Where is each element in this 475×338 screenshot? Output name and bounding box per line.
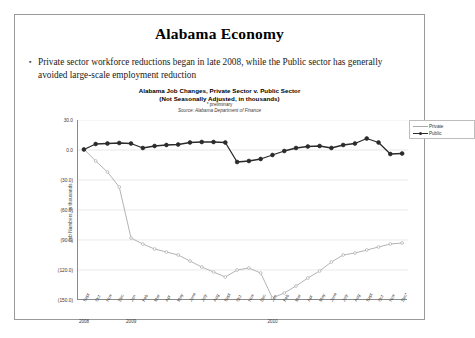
data-point — [354, 252, 357, 255]
x-axis-year-label: 2009 — [126, 319, 136, 324]
data-point — [129, 142, 133, 146]
data-point — [388, 152, 392, 156]
chart-title-block: Alabama Job Changes, Private Sector v. P… — [15, 87, 424, 114]
data-point — [176, 143, 180, 147]
data-point — [117, 141, 121, 145]
legend-swatch-icon — [412, 130, 429, 137]
data-point — [377, 246, 380, 249]
y-axis-tick-label: (120.0) — [33, 268, 73, 273]
data-point — [177, 254, 180, 257]
data-point — [130, 237, 133, 240]
chart-svg — [78, 120, 408, 300]
data-point — [401, 242, 404, 245]
y-axis-ticks: 30.00.0(30.0)(60.0)(90.0)(120.0)(150.0) — [33, 114, 73, 316]
y-axis-tick-label: 0.0 — [33, 148, 73, 153]
bullet-text: Private sector workforce reductions bega… — [38, 56, 408, 81]
data-point — [82, 148, 86, 152]
chart-title-line: Alabama Job Changes, Private Sector v. P… — [15, 87, 424, 95]
page-title: Alabama Economy — [15, 25, 424, 43]
data-point — [141, 243, 144, 246]
data-point — [377, 141, 381, 145]
data-point — [259, 272, 262, 275]
data-point — [212, 140, 216, 144]
chart: Alabama Job Changes, Private Sector v. P… — [15, 87, 424, 319]
x-axis-tick-label: Oct — [94, 294, 102, 302]
data-point — [306, 277, 309, 280]
data-point — [188, 141, 192, 145]
y-axis-tick-label: (30.0) — [33, 178, 73, 183]
chart-subtitle: (Not Seasonally Adjusted, in thousands) — [15, 95, 424, 103]
data-point — [224, 276, 227, 279]
data-point — [141, 146, 145, 150]
data-point — [106, 142, 110, 146]
data-point — [330, 261, 333, 264]
data-point — [342, 254, 345, 257]
data-point — [318, 270, 321, 273]
data-point — [236, 269, 239, 272]
data-point — [282, 149, 286, 153]
x-axis-tick-label: Apr — [306, 294, 314, 302]
data-point — [106, 171, 109, 174]
legend-label: Private — [429, 124, 443, 129]
x-axis-year-label: 2010 — [267, 319, 277, 324]
data-point — [165, 251, 168, 254]
x-axis-ticks: SeptOctNovDecJanFebMarAprMayJuneJulyAugS… — [77, 300, 407, 326]
data-point — [306, 145, 310, 149]
data-point — [294, 146, 298, 150]
data-point — [153, 144, 157, 148]
data-point — [329, 146, 333, 150]
data-point — [365, 249, 368, 252]
data-point — [94, 160, 97, 163]
y-axis-tick-label: (150.0) — [33, 298, 73, 303]
data-point — [353, 142, 357, 146]
y-axis-tick-label: 30.0 — [33, 118, 73, 123]
data-point — [247, 159, 251, 163]
bullet-marker-icon: ▪ — [29, 56, 38, 81]
y-axis-tick-label: (90.0) — [33, 238, 73, 243]
legend-swatch-icon — [412, 123, 429, 130]
data-point — [295, 285, 298, 288]
plot-area: PrivatePublic — [77, 120, 407, 300]
legend-item-public[interactable]: Public — [412, 130, 472, 137]
data-point — [271, 153, 275, 157]
data-point — [200, 266, 203, 269]
data-point — [223, 141, 227, 145]
data-point — [365, 137, 369, 141]
data-point — [153, 248, 156, 251]
data-point — [212, 271, 215, 274]
data-point — [118, 186, 121, 189]
legend-item-private[interactable]: Private — [412, 123, 472, 130]
slide-frame: Alabama Economy ▪ Private sector workfor… — [14, 14, 425, 320]
bullet-item: ▪ Private sector workforce reductions be… — [29, 56, 408, 81]
data-point — [235, 160, 239, 164]
data-point — [164, 143, 168, 147]
legend-label: Public — [429, 131, 442, 136]
data-point — [389, 243, 392, 246]
chart-legend: PrivatePublic — [409, 120, 475, 139]
x-axis-year-label: 2008 — [79, 319, 89, 324]
data-point — [189, 260, 192, 263]
data-point — [259, 157, 263, 161]
data-point — [247, 267, 250, 270]
data-point — [400, 152, 404, 156]
data-point — [94, 142, 98, 146]
y-axis-tick-label: (60.0) — [33, 208, 73, 213]
plot-area-wrapper: Job Numbers, in thousands 30.00.0(30.0)(… — [15, 114, 424, 316]
data-point — [341, 143, 345, 147]
data-point — [200, 140, 204, 144]
data-point — [318, 144, 322, 148]
series-line-private — [84, 149, 402, 298]
